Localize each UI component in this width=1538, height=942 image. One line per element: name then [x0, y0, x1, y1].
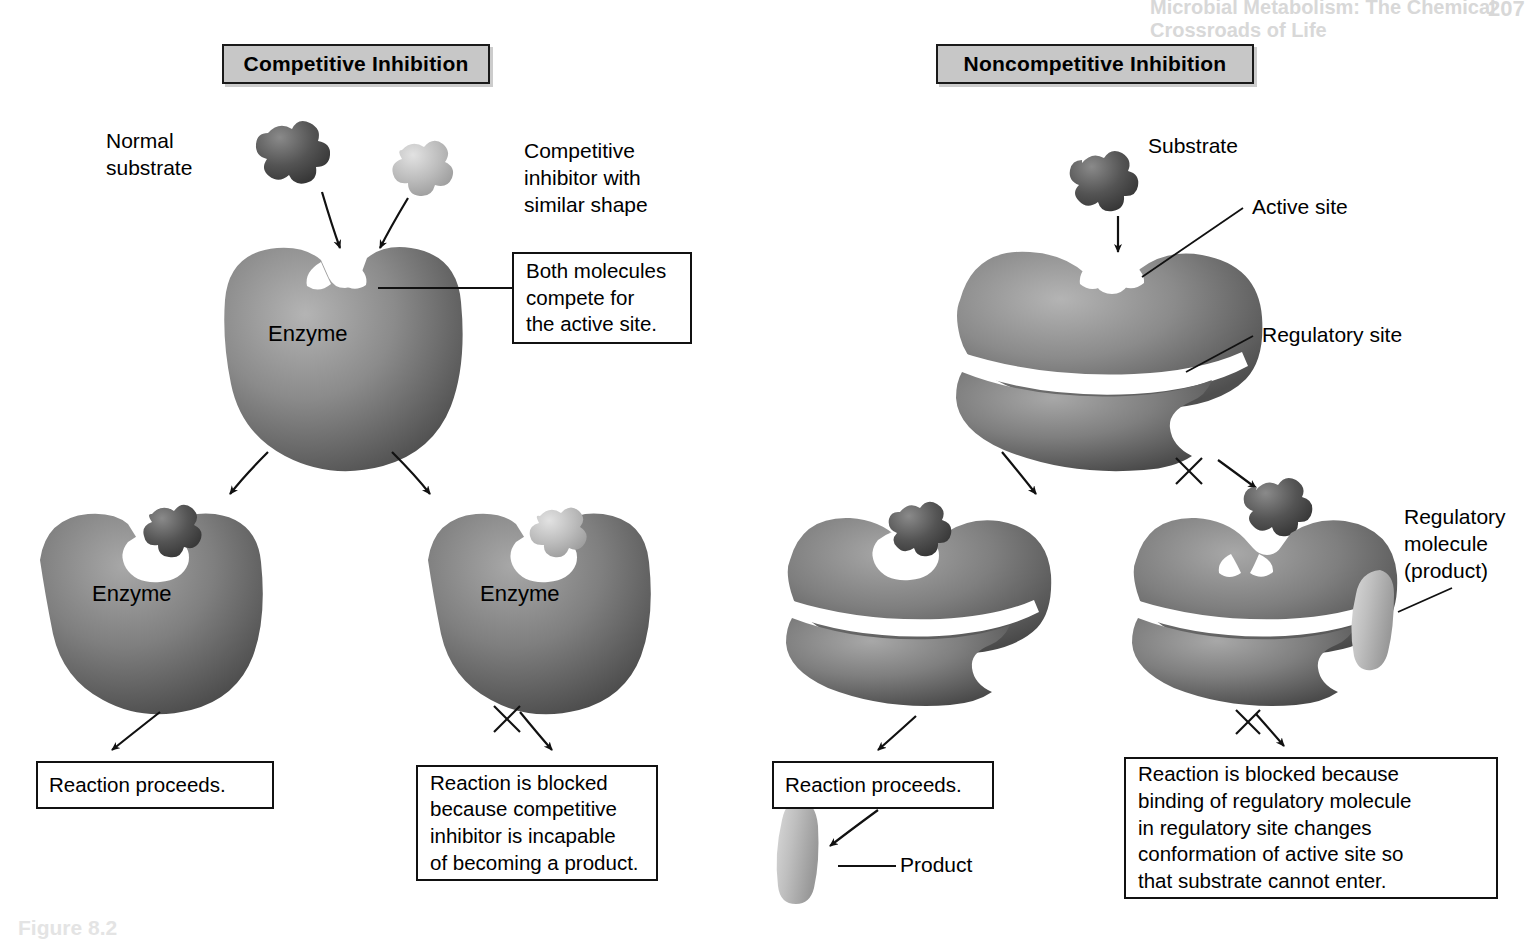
- arrow-substrate-to-enzyme: [322, 192, 340, 248]
- label-enzyme-bound-inhibitor: Enzyme: [480, 580, 559, 608]
- label-active-site: Active site: [1252, 194, 1348, 221]
- label-product: Product: [900, 852, 972, 879]
- arrow-to-reaction-blocked-left: [520, 712, 552, 750]
- product-shape: [777, 800, 819, 904]
- arrow-branch-right-right: [1218, 460, 1256, 488]
- callout-reaction-proceeds-right: Reaction proceeds.: [772, 761, 994, 809]
- callout-reaction-blocked-left: Reaction is blocked because competitive …: [416, 765, 658, 881]
- label-substrate: Substrate: [1148, 133, 1238, 160]
- enzyme-shape-main: [224, 247, 462, 471]
- enzyme-shape-noncompetitive-main: [956, 252, 1262, 471]
- blocked-x-mark-left: [494, 706, 520, 732]
- label-enzyme-bound-substrate: Enzyme: [92, 580, 171, 608]
- enzyme-shape-nc-bound-substrate: [786, 502, 1051, 706]
- callout-compete-active-site: Both molecules compete for the active si…: [512, 252, 692, 344]
- arrow-to-reaction-proceeds-right: [878, 716, 916, 750]
- blocked-x-mark-bottom-right: [1236, 710, 1260, 734]
- label-regulatory-site: Regulatory site: [1262, 322, 1402, 349]
- substrate-shape-top: [1070, 151, 1139, 211]
- arrow-to-product-label: [830, 810, 878, 846]
- panel-title-noncompetitive: Noncompetitive Inhibition: [936, 44, 1254, 84]
- arrow-branch-right: [392, 452, 430, 494]
- panel-title-competitive: Competitive Inhibition: [222, 44, 490, 84]
- leader-regulatory-molecule: [1398, 588, 1452, 612]
- competitive-inhibitor-shape: [392, 141, 453, 196]
- arrow-to-reaction-blocked-right: [1256, 714, 1284, 746]
- label-enzyme-main: Enzyme: [268, 320, 347, 348]
- arrow-to-reaction-proceeds-left: [112, 712, 160, 750]
- label-regulatory-molecule: Regulatory molecule (product): [1404, 504, 1506, 585]
- arrow-branch-left: [230, 452, 268, 494]
- enzyme-shape-bound-substrate: [40, 505, 263, 715]
- callout-reaction-blocked-right: Reaction is blocked because binding of r…: [1124, 757, 1498, 899]
- label-competitive-inhibitor: Competitive inhibitor with similar shape: [524, 138, 648, 219]
- label-normal-substrate: Normal substrate: [106, 128, 192, 182]
- callout-reaction-proceeds-left: Reaction proceeds.: [36, 761, 274, 809]
- enzyme-shape-nc-bound-regulator: [1132, 518, 1397, 706]
- blocked-x-mark-top-right: [1176, 458, 1202, 484]
- normal-substrate-shape: [256, 121, 330, 184]
- enzyme-shape-bound-inhibitor: [428, 507, 651, 714]
- arrow-inhibitor-to-enzyme: [380, 198, 408, 248]
- figure-canvas: Microbial Metabolism: The Chemical Cross…: [0, 0, 1538, 942]
